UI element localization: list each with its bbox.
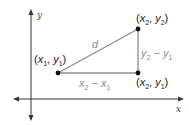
hypotenuse-label: d [92,38,99,50]
point-label-x2-y1: (x2, y1) [136,76,168,90]
point-x1-y1 [56,71,61,76]
point-label-x2-y2: (x2, y2) [136,12,168,26]
hypotenuse-segment [58,29,138,73]
vertical-length-label: y2 − y1 [140,47,172,61]
point-x2-y2 [136,27,141,32]
y-axis-up-arrow-icon [29,9,34,15]
x-axis-label: x [176,104,181,114]
horizontal-length-label: x2 − x1 [78,77,110,91]
point-label-x1-y1: (x1, y1) [34,53,66,67]
y-axis-down-arrow-icon [29,115,34,121]
x-axis-right-arrow-icon [178,97,184,102]
x-axis-left-arrow-icon [13,97,19,102]
point-x2-y1 [136,71,141,76]
right-triangle [58,29,138,73]
y-axis-label: y [36,10,43,20]
coordinate-axes: y x [13,9,184,121]
distance-formula-diagram: y x d x2 − x1 y2 − y1 (x1, y1) (x2, y2) … [0,0,189,125]
